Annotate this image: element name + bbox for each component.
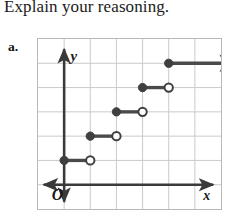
prompt-text: Explain your reasoning.	[4, 0, 169, 17]
step-open-endpoint	[138, 108, 146, 116]
item-label-a: a.	[8, 39, 18, 55]
axes	[44, 49, 213, 202]
page-root: Explain your reasoning. a. yxO	[0, 0, 238, 213]
step-open-endpoint	[86, 156, 94, 164]
step-closed-endpoint	[60, 156, 68, 164]
axis-labels: yxO	[52, 48, 210, 203]
y-axis-label: y	[69, 48, 78, 64]
step-closed-endpoint	[165, 59, 173, 67]
graph-canvas: yxO	[38, 39, 221, 209]
step-open-endpoint	[112, 132, 120, 140]
step-closed-endpoint	[112, 108, 120, 116]
step-function-graph: yxO	[37, 38, 222, 210]
step-open-endpoint	[165, 83, 173, 91]
x-axis-label: x	[202, 188, 210, 203]
origin-label: O	[52, 186, 63, 203]
step-closed-endpoint	[86, 132, 94, 140]
step-closed-endpoint	[138, 83, 146, 91]
